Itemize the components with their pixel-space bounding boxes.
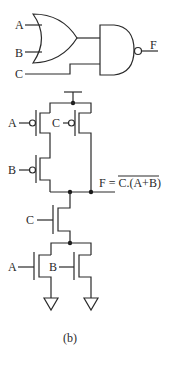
input-c-wire — [25, 64, 100, 74]
ground-icon-left — [44, 298, 58, 310]
nmos-c-label: C — [26, 213, 34, 227]
nand-gate — [100, 25, 142, 75]
label-f: F — [150, 38, 157, 52]
pmos-b — [19, 148, 50, 192]
nmos-b — [59, 252, 91, 298]
nmos-b-label: B — [49, 260, 57, 274]
output-node-dot-right — [89, 190, 93, 194]
figure-caption: (b) — [63, 331, 77, 345]
pmos-c — [63, 110, 91, 192]
or-gate — [33, 14, 77, 63]
pmos-a-label: A — [8, 116, 17, 130]
nmos-a — [18, 252, 51, 298]
label-b: B — [15, 46, 23, 60]
inverter-bubble — [135, 48, 142, 55]
output-expression-prefix: F = — [99, 176, 118, 190]
cmos-circuit-diagram: A B F C A C B F = C.(A — [0, 0, 173, 370]
output-expression: F = C.(A+B) — [99, 176, 161, 190]
vdd-rail — [50, 103, 91, 113]
pmos-b-label: B — [8, 163, 16, 177]
pmos-a — [19, 110, 50, 148]
label-c: C — [15, 67, 23, 81]
ground-icon-right — [84, 298, 98, 310]
pmos-c-label: C — [52, 116, 60, 130]
output-expression-overlined: C.(A+B) — [118, 176, 160, 190]
nmos-c — [37, 192, 70, 243]
nmos-a-label: A — [8, 260, 17, 274]
label-a: A — [15, 18, 24, 32]
